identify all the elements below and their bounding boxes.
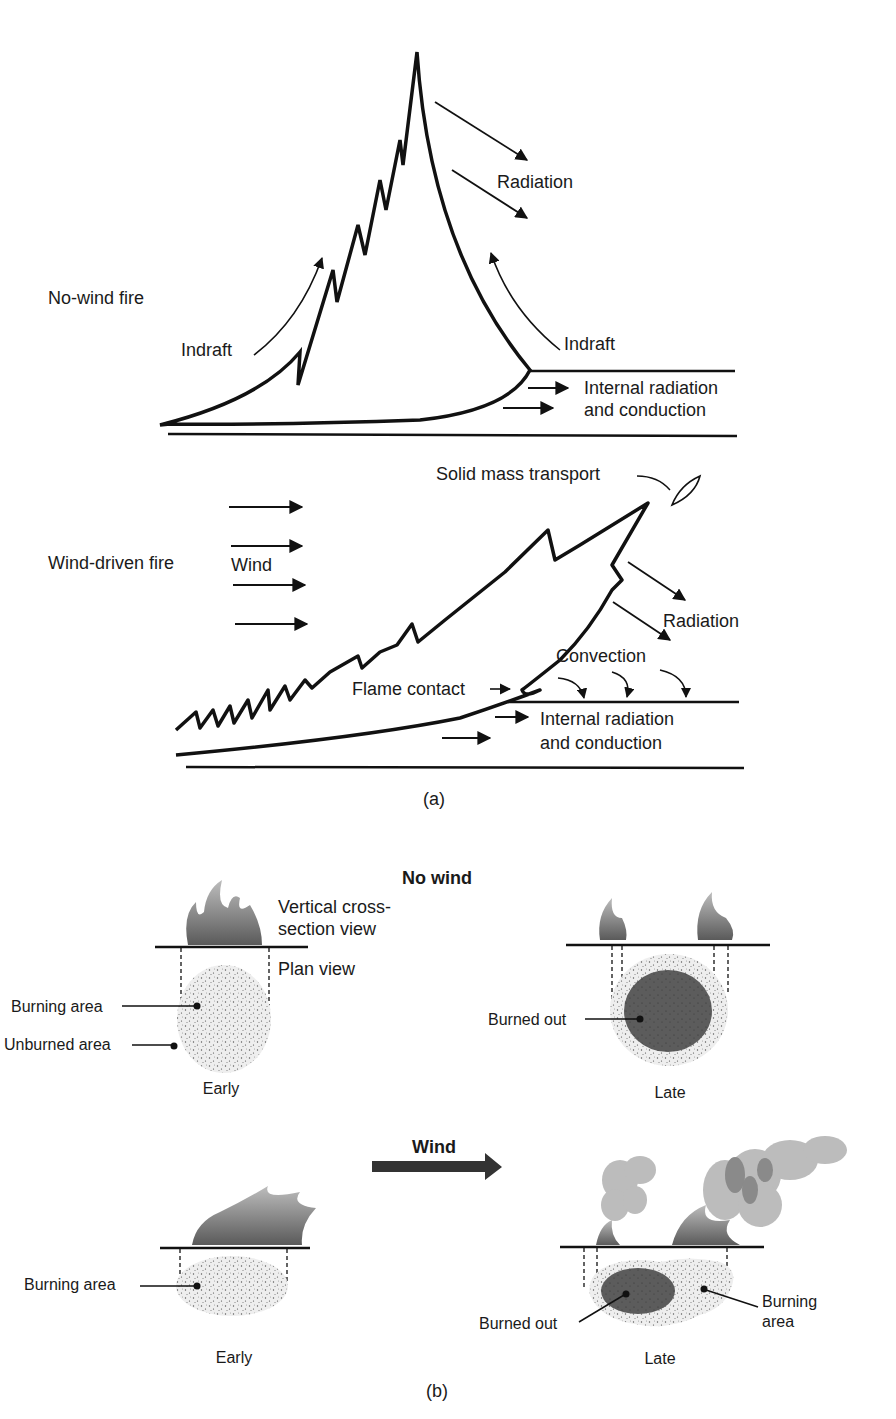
late-label: Late (654, 1084, 685, 1101)
wind-burned-out-label: Burned out (479, 1315, 558, 1332)
convection-label: Convection (556, 646, 646, 666)
radiation-label: Radiation (663, 611, 739, 631)
smoke-icon (601, 1136, 847, 1227)
radiation-label: Radiation (497, 172, 573, 192)
ground-line (186, 767, 744, 768)
wind-burning-label-1: Burning (762, 1293, 817, 1310)
plan-view-label: Plan view (278, 959, 356, 979)
wind-early-label: Early (216, 1349, 252, 1366)
wind-plan-diagram: Wind Burning area Early (24, 1136, 847, 1367)
caption-b: (b) (426, 1381, 448, 1401)
internal-radiation-label-1: Internal radiation (540, 709, 674, 729)
burned-out-area (624, 970, 712, 1052)
burned-out-area (601, 1268, 675, 1314)
early-label: Early (203, 1080, 239, 1097)
wind-burning-label-2: area (762, 1313, 794, 1330)
internal-radiation-label-2: and conduction (540, 733, 662, 753)
burning-area-circle (177, 965, 271, 1073)
ground-line (168, 434, 737, 436)
no-wind-fire-title: No-wind fire (48, 288, 144, 308)
indraft-label-right: Indraft (564, 334, 615, 354)
no-wind-plan-diagram: No wind Vertical cross- section view Pla… (4, 868, 770, 1101)
wind-burning-area-label: Burning area (24, 1276, 116, 1293)
vertical-label-2: section view (278, 919, 377, 939)
convection-arrow (660, 670, 686, 697)
wind-late-label: Late (644, 1350, 675, 1367)
solid-mass-leader (637, 476, 670, 490)
internal-radiation-label-2: and conduction (584, 400, 706, 420)
wind-direction-arrow-icon (372, 1153, 502, 1180)
no-wind-fire-diagram: No-wind fire Radiation Indraft Indraft I… (48, 52, 737, 436)
convection-arrow (558, 678, 584, 698)
firebrand-icon (672, 476, 700, 505)
convection-arrow (612, 672, 628, 697)
no-wind-flame-outline (160, 52, 530, 425)
wind-label: Wind (231, 555, 272, 575)
wind-title: Wind (412, 1137, 456, 1157)
internal-radiation-label-1: Internal radiation (584, 378, 718, 398)
wind-driven-fire-title: Wind-driven fire (48, 553, 174, 573)
caption-a: (a) (423, 789, 445, 809)
flame-icon (192, 1186, 316, 1245)
unburned-area-label: Unburned area (4, 1036, 111, 1053)
radiation-arrow (435, 102, 527, 160)
indraft-arrow-right (491, 253, 560, 350)
fire-spread-diagram: No-wind fire Radiation Indraft Indraft I… (0, 0, 896, 1419)
burned-out-label: Burned out (488, 1011, 567, 1028)
indraft-label-left: Indraft (181, 340, 232, 360)
radiation-arrow (613, 602, 670, 640)
no-wind-title: No wind (402, 868, 472, 888)
flame-icon (186, 880, 262, 945)
wind-driven-fire-diagram: Wind-driven fire Wind Solid mass transpo… (48, 464, 744, 768)
flame-icon (599, 898, 626, 940)
flame-icon (596, 1220, 620, 1245)
solid-mass-transport-label: Solid mass transport (436, 464, 600, 484)
flame-contact-label: Flame contact (352, 679, 465, 699)
burning-area-label: Burning area (11, 998, 103, 1015)
vertical-label-1: Vertical cross- (278, 897, 391, 917)
radiation-arrow (628, 562, 685, 600)
flame-icon (697, 892, 733, 940)
